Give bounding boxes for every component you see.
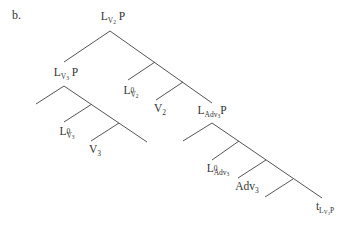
node-base: L	[54, 66, 61, 78]
node-sup: 0	[66, 128, 70, 136]
node-base: L	[207, 162, 214, 174]
node-after: P	[69, 66, 78, 78]
node-subsub: 2	[136, 93, 139, 99]
node-root-lv2p: LV2 P	[101, 11, 125, 26]
node-sup: 0	[130, 87, 134, 95]
node-sup: 0	[214, 165, 218, 173]
edge	[64, 31, 110, 62]
tree-edges	[0, 0, 350, 226]
node-lv3p: LV3 P	[54, 67, 78, 82]
node-l0v2: L0V2	[123, 85, 138, 100]
node-l0v3: L0V3	[59, 126, 74, 141]
edge	[183, 123, 212, 141]
node-base: L	[59, 125, 66, 137]
edge	[156, 82, 183, 100]
node-after: P	[220, 104, 226, 116]
node-trace: tLV3P	[316, 201, 334, 217]
node-v2: V2	[154, 103, 166, 117]
edge	[91, 123, 119, 141]
edge	[238, 160, 266, 178]
node-adv3: Adv3	[235, 181, 259, 195]
node-sub: 3	[97, 149, 101, 158]
node-base: L	[197, 104, 204, 116]
node-after: P	[330, 206, 334, 215]
node-sub: 2	[162, 108, 166, 117]
node-sub: Adv	[204, 110, 217, 119]
node-after: P	[116, 10, 125, 22]
node-subsub: 3	[72, 134, 75, 140]
node-sub: 3	[255, 186, 259, 195]
node-ladv3p: LAdv3P	[197, 105, 226, 120]
edge	[212, 141, 239, 160]
node-base: Adv	[235, 180, 255, 192]
node-subsub: 3	[227, 171, 230, 177]
node-l0adv3: L0Adv3	[207, 163, 230, 178]
node-base: L	[101, 10, 108, 22]
node-base: L	[123, 84, 130, 96]
node-v3: V3	[89, 144, 101, 158]
edge	[265, 179, 293, 197]
edge	[212, 123, 322, 198]
edge	[64, 104, 92, 122]
edge	[128, 62, 155, 80]
edge	[36, 86, 64, 104]
